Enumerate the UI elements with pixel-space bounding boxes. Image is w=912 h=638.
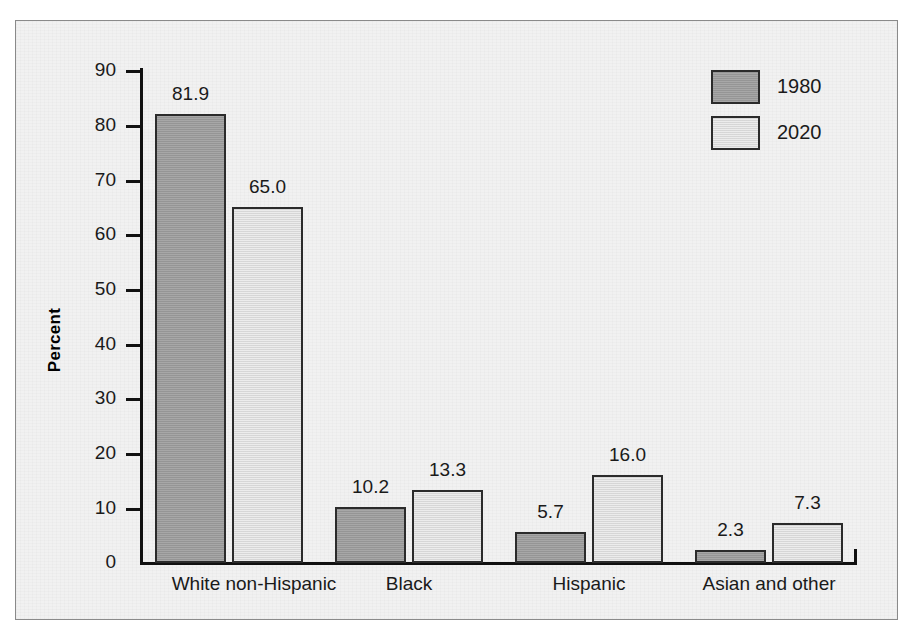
y-tick-30: 30 xyxy=(78,398,143,401)
bar-1980-asian-and-other[interactable] xyxy=(695,550,766,563)
bar-value-1980-black: 10.2 xyxy=(330,477,411,496)
y-tick-label-40: 40 xyxy=(78,334,116,353)
x-axis-end-tick xyxy=(854,549,857,565)
y-tick-label-30: 30 xyxy=(78,388,116,407)
y-tick-40: 40 xyxy=(78,344,143,347)
x-category-label-black: Black xyxy=(309,574,509,593)
legend-swatch-1980-icon xyxy=(711,70,760,104)
bar-2020-hispanic[interactable] xyxy=(592,475,663,563)
y-tick-80: 80 xyxy=(78,125,143,128)
y-tick-10: 10 xyxy=(78,508,143,511)
bar-1980-white-non-hispanic[interactable] xyxy=(155,114,226,563)
y-tick-label-90: 90 xyxy=(78,60,116,79)
bar-value-2020-black: 13.3 xyxy=(407,460,488,479)
y-tick-label-80: 80 xyxy=(78,115,116,134)
bar-1980-black[interactable] xyxy=(335,507,406,563)
legend-swatch-2020-icon xyxy=(711,116,760,150)
legend-label-1980: 1980 xyxy=(777,76,822,96)
bar-value-1980-asian-and-other: 2.3 xyxy=(690,520,771,539)
bar-value-1980-hispanic: 5.7 xyxy=(510,502,591,521)
x-category-label-asian-and-other: Asian and other xyxy=(669,574,869,593)
y-tick-label-50: 50 xyxy=(78,279,116,298)
bar-value-1980-white-non-hispanic: 81.9 xyxy=(150,84,231,103)
legend-label-2020: 2020 xyxy=(777,122,822,142)
bar-1980-hispanic[interactable] xyxy=(515,532,586,563)
y-tick-20: 20 xyxy=(78,453,143,456)
y-axis-line xyxy=(140,68,143,565)
y-tick-label-10: 10 xyxy=(78,498,116,517)
y-tick-50: 50 xyxy=(78,289,143,292)
chart-page: Percent 90 80 70 60 50 40 30 xyxy=(0,0,912,638)
plot-area: Percent 90 80 70 60 50 40 30 xyxy=(0,0,912,638)
y-tick-90: 90 xyxy=(78,70,143,73)
y-tick-60: 60 xyxy=(78,234,143,237)
y-tick-label-0: 0 xyxy=(78,552,116,571)
y-axis-label: Percent xyxy=(45,280,65,400)
bar-2020-white-non-hispanic[interactable] xyxy=(232,207,303,563)
y-tick-label-60: 60 xyxy=(78,224,116,243)
y-tick-70: 70 xyxy=(78,180,143,183)
y-tick-0: 0 xyxy=(78,562,143,565)
bar-value-2020-asian-and-other: 7.3 xyxy=(767,493,848,512)
bar-value-2020-white-non-hispanic: 65.0 xyxy=(227,177,308,196)
y-tick-label-20: 20 xyxy=(78,443,116,462)
bar-2020-asian-and-other[interactable] xyxy=(772,523,843,563)
x-category-label-hispanic: Hispanic xyxy=(489,574,689,593)
bar-value-2020-hispanic: 16.0 xyxy=(587,445,668,464)
bar-2020-black[interactable] xyxy=(412,490,483,563)
y-tick-label-70: 70 xyxy=(78,170,116,189)
